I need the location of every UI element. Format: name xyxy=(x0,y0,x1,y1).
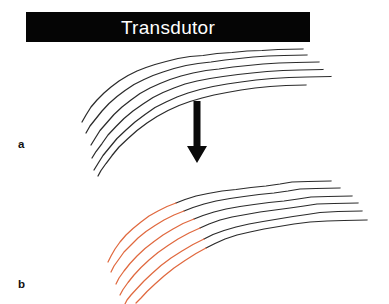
fiber-line xyxy=(82,49,303,122)
figure-canvas: Transdutor a xyxy=(0,0,389,304)
ultrasound-fiber-figure: Transdutor a xyxy=(0,0,389,304)
fiber-line-highlight xyxy=(136,248,206,303)
fiber-line xyxy=(94,77,331,171)
panel-a-fibers xyxy=(82,49,331,176)
fiber-line xyxy=(98,85,306,176)
fiber-line-dark xyxy=(194,196,352,219)
fiber-line xyxy=(91,62,319,145)
fiber-line xyxy=(92,70,323,159)
transducer-bar: Transdutor xyxy=(26,12,310,42)
panel-b-fibers xyxy=(108,181,367,304)
fiber-line-dark xyxy=(200,203,358,228)
downward-arrow xyxy=(187,101,207,163)
panel-b-label: b xyxy=(18,278,25,290)
downward-arrow-shape xyxy=(187,101,207,163)
transducer-bar-label: Transdutor xyxy=(121,17,216,38)
fiber-line-dark xyxy=(204,211,362,239)
fiber-line-dark xyxy=(206,220,367,248)
fiber-line-highlight xyxy=(108,203,176,262)
panel-a-label: a xyxy=(18,138,25,150)
fiber-line-dark xyxy=(184,188,340,211)
fiber-line-dark xyxy=(176,181,331,203)
